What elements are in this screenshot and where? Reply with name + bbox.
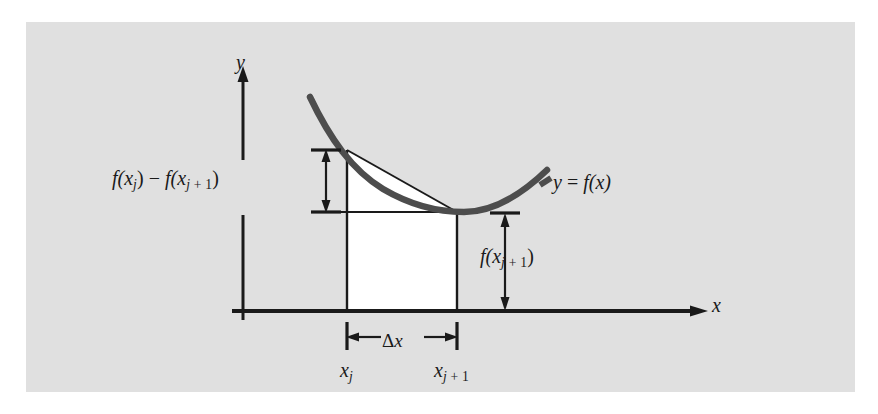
x-j-var: x	[340, 359, 349, 381]
delta-symbol: Δ	[382, 330, 394, 351]
f-xj1-fn: f(x	[480, 245, 501, 267]
x-j1-var: x	[434, 359, 443, 381]
curve-equation-label: y = f(x)	[553, 172, 611, 192]
difference-close2: )	[212, 167, 219, 189]
f-xj1-close: )	[527, 245, 534, 267]
difference-fn2: f(x	[165, 167, 186, 189]
height-arrowhead-up	[501, 213, 510, 227]
height-arrowhead-down	[501, 297, 510, 311]
inscribed-rectangle	[347, 212, 457, 311]
delta-x-var: x	[394, 330, 402, 351]
f-xj1-sub: j + 1	[501, 255, 527, 270]
curve-equals: =	[562, 171, 583, 193]
difference-sub2: j + 1	[186, 177, 212, 192]
difference-fn1: f(x	[112, 167, 133, 189]
y-axis-label: y	[236, 52, 245, 72]
curve-arg: (x)	[589, 171, 611, 193]
x-axis-arrowhead	[690, 306, 708, 317]
difference-minus: −	[144, 167, 165, 189]
difference-sub2-plus: + 1	[190, 177, 212, 192]
difference-bracket	[311, 149, 341, 213]
figure-drawing	[0, 0, 878, 414]
delta-x-label: Δx	[382, 331, 403, 350]
difference-close1: )	[137, 167, 144, 189]
f-xj1-label: f(xj + 1)	[480, 246, 534, 269]
x-j-sub: j	[349, 369, 353, 384]
x-j-tick-label: xj	[340, 360, 353, 383]
x-axis-label: x	[712, 295, 721, 315]
x-j1-tick-label: xj + 1	[434, 360, 469, 383]
x-j1-sub-plus: + 1	[447, 369, 469, 384]
figure-container: y x f(xj) − f(xj + 1) f(xj + 1) y = f(x)…	[0, 0, 878, 414]
curve-lhs: y	[553, 171, 562, 193]
f-xj1-sub-plus: + 1	[505, 255, 527, 270]
difference-label: f(xj) − f(xj + 1)	[112, 168, 219, 191]
function-curve	[310, 97, 547, 212]
x-j1-sub: j + 1	[443, 369, 469, 384]
